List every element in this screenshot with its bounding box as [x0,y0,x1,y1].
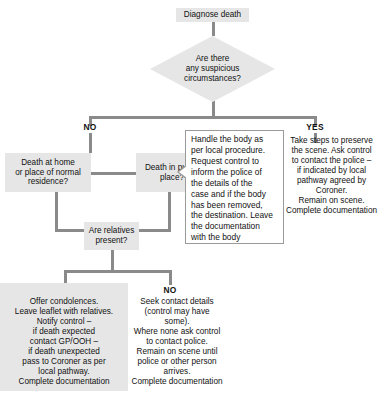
node-diagnose-death[interactable]: Diagnose death [176,8,249,22]
text-seek-contact-details: Seek contact details (control may have s… [122,297,232,387]
branch-label-yes-top: YES [300,122,330,132]
connector-home-down [55,192,58,232]
node-are-relatives-present[interactable]: Are relatives present? [84,222,139,250]
connector-relatives-down [111,250,114,272]
text-preserve-scene: Take steps to preserve the scene. Ask co… [283,136,380,216]
connector-home-to-public [91,172,136,175]
node-suspicious-circumstances-label: Are there any suspicious circumstances? [184,54,241,84]
node-death-at-home-label: Death at home or place of normal residen… [8,158,88,187]
text-offer-condolences: Offer condolences. Leave leaflet with re… [0,283,128,391]
connector-relatives-inflow-right [139,229,171,232]
callout-handle-the-body-text: Handle the body as per local procedure. … [191,134,273,242]
callout-pointer-fill-icon [179,166,187,178]
branch-label-no-top: NO [75,122,105,132]
callout-handle-the-body[interactable]: Handle the body as per local procedure. … [185,130,284,244]
connector-relatives-inflow-left [55,229,84,232]
node-suspicious-circumstances[interactable]: Are there any suspicious circumstances? [150,36,275,102]
node-are-relatives-present-label: Are relatives present? [87,226,136,245]
node-death-at-home[interactable]: Death at home or place of normal residen… [5,153,91,192]
branch-label-no-bottom: NO [155,285,185,295]
connector-start-to-suspicious [212,22,215,36]
connector-top-split-horizontal [89,116,317,119]
connector-no-to-home [89,133,92,153]
connector-bottom-split-right-stub [169,270,172,285]
connector-public-down [168,192,171,232]
node-diagnose-death-label: Diagnose death [179,10,246,20]
flowchart-canvas: Diagnose death Are there any suspicious … [0,0,381,413]
connector-bottom-split-horizontal [64,270,172,273]
